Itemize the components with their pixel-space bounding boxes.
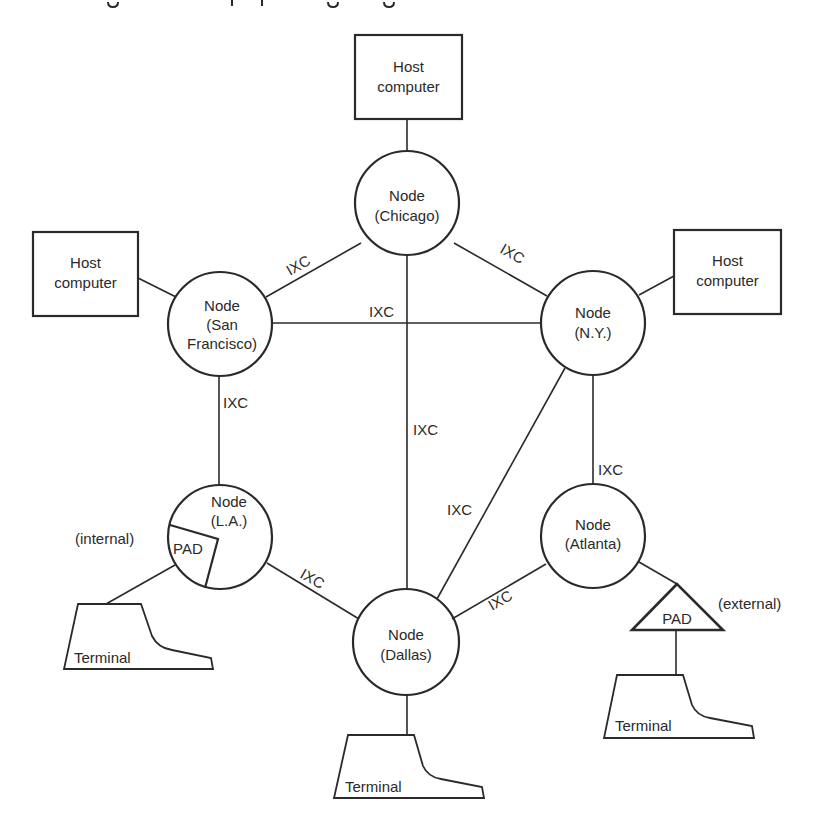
ixc-labels: IXC IXC IXC IXC IXC IXC IXC IXC IXC [223, 240, 623, 614]
node-ny: Node (N.Y.) [541, 271, 645, 375]
terminal-left-label: Terminal [74, 649, 131, 666]
link-host-right-ny [639, 276, 674, 295]
host-top-line2: computer [377, 78, 440, 95]
link-sf-chicago [266, 243, 361, 297]
terminal-bottom-label: Terminal [345, 778, 402, 795]
host-computer-left: Host computer [33, 232, 138, 316]
node-chicago-line1: Node [389, 187, 425, 204]
link-atlanta-pad [639, 562, 677, 584]
terminal-right-label: Terminal [615, 717, 672, 734]
ixc-label-sf-chicago: IXC [283, 251, 313, 278]
external-annotation: (external) [718, 595, 781, 612]
link-host-left-sf [138, 278, 176, 297]
host-right-line2: computer [696, 272, 759, 289]
ixc-label-chicago-dallas: IXC [413, 421, 438, 438]
ixc-label-dallas-atlanta: IXC [485, 586, 515, 613]
node-ny-line2: (N.Y.) [574, 324, 611, 341]
ixc-label-la-dallas: IXC [298, 565, 328, 592]
pad-internal-label: PAD [173, 540, 203, 557]
terminal-bottom: Terminal [334, 735, 484, 798]
node-la: Node (L.A.) PAD [168, 485, 272, 589]
node-sf-line2: (San [206, 316, 238, 333]
host-computer-top: Host computer [355, 35, 462, 119]
node-sf-line1: Node [204, 297, 240, 314]
host-top-line1: Host [393, 58, 425, 75]
ixc-label-ny-atlanta: IXC [598, 461, 623, 478]
node-san-francisco: Node (San Francisco) [168, 272, 272, 376]
ixc-label-sf-ny: IXC [369, 303, 394, 320]
ixc-label-ny-dallas: IXC [447, 501, 472, 518]
host-right-line1: Host [712, 252, 744, 269]
host-computer-right: Host computer [674, 230, 781, 314]
node-atlanta-line2: (Atlanta) [565, 535, 622, 552]
caption-fragment [108, 0, 394, 7]
node-la-line2: (L.A.) [211, 512, 248, 529]
node-atlanta-line1: Node [575, 516, 611, 533]
ixc-label-chicago-ny: IXC [498, 240, 528, 267]
terminal-left: Terminal [64, 604, 213, 669]
pad-external: PAD [632, 584, 723, 630]
terminal-right: Terminal [604, 675, 754, 738]
ixc-label-sf-la: IXC [223, 394, 248, 411]
node-la-line1: Node [211, 493, 247, 510]
node-chicago-line2: (Chicago) [374, 207, 439, 224]
node-dallas-line2: (Dallas) [380, 646, 432, 663]
host-left-line2: computer [54, 274, 117, 291]
node-ny-line1: Node [575, 304, 611, 321]
pad-external-label: PAD [662, 610, 692, 627]
network-diagram: IXC IXC IXC IXC IXC IXC IXC IXC IXC Host… [0, 0, 826, 824]
node-atlanta: Node (Atlanta) [541, 484, 645, 588]
host-left-line1: Host [70, 254, 102, 271]
node-sf-line3: Francisco) [187, 335, 257, 352]
node-dallas-line1: Node [388, 626, 424, 643]
link-la-terminal [106, 565, 175, 604]
node-dallas: Node (Dallas) [353, 589, 459, 695]
node-chicago: Node (Chicago) [355, 151, 459, 255]
internal-annotation: (internal) [75, 530, 134, 547]
